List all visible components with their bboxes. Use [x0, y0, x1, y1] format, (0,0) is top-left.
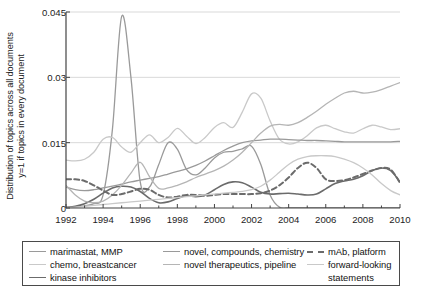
legend-item[interactable]: chemo, breastcancer: [29, 258, 137, 271]
legend-item-label-continued: statements: [328, 271, 391, 284]
legend-swatch-icon: [163, 258, 180, 271]
legend-swatch-icon: [163, 245, 180, 258]
x-tick-label: 2004: [278, 214, 299, 225]
legend-item[interactable]: novel, compounds, chemistry: [163, 245, 304, 258]
legend-item-label: forward-looking: [328, 258, 391, 271]
legend-swatch-icon: [29, 258, 46, 271]
x-tick-label: 1994: [92, 214, 113, 225]
x-tick-label: 2008: [352, 214, 373, 225]
legend-item-label: marimastat, MMP: [50, 245, 123, 258]
series-line: [66, 139, 400, 190]
series-group: [66, 15, 400, 208]
x-tick-label: 2006: [315, 214, 336, 225]
legend-column-3: mAb, platformforward-lookingstatements: [307, 245, 391, 284]
legend-item-label: novel, compounds, chemistry: [184, 245, 304, 258]
legend-swatch-icon: [307, 258, 324, 271]
x-tick-label: 2000: [204, 214, 225, 225]
legend-item[interactable]: mAb, platform: [307, 245, 391, 258]
legend-swatch-icon: [29, 245, 46, 258]
x-axis-tick-labels: 1992199419961998200020022004200620082010: [0, 214, 422, 234]
x-tick-label: 2010: [389, 214, 410, 225]
legend-item-label: mAb, platform: [328, 245, 386, 258]
legend-item[interactable]: novel therapeutics, pipeline: [163, 258, 304, 271]
legend-item-label: chemo, breastcancer: [50, 258, 137, 271]
x-tick-label: 1992: [55, 214, 76, 225]
legend-column-1: marimastat, MMPchemo, breastcancerkinase…: [29, 245, 137, 284]
x-tick-label: 1998: [167, 214, 188, 225]
legend-swatch-icon: [29, 271, 46, 284]
legend-item[interactable]: forward-looking: [307, 258, 391, 271]
x-tick-label: 2002: [241, 214, 262, 225]
legend-column-2: novel, compounds, chemistrynovel therape…: [163, 245, 304, 271]
legend-item-label: novel therapeutics, pipeline: [184, 258, 296, 271]
legend-item[interactable]: marimastat, MMP: [29, 245, 137, 258]
legend-item-label: kinase inhibitors: [50, 271, 116, 284]
series-line: [66, 168, 400, 208]
x-tick-label: 1996: [130, 214, 151, 225]
legend-swatch-icon: [307, 245, 324, 258]
chart-legend: marimastat, MMPchemo, breastcancerkinase…: [22, 241, 400, 286]
chart-figure: Distribution of topics across all docume…: [0, 0, 422, 294]
legend-item[interactable]: kinase inhibitors: [29, 271, 137, 284]
